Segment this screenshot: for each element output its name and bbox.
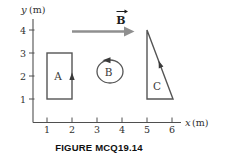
y-axis-label-var: y bbox=[20, 4, 27, 15]
field-arrow: B bbox=[72, 10, 135, 37]
loop-a-rectangle: A bbox=[47, 53, 75, 99]
y-axis-label-unit: (m) bbox=[29, 4, 45, 15]
y-tick-2: 2 bbox=[20, 71, 26, 82]
loop-b-circle: B bbox=[97, 57, 123, 83]
figure-canvas: 4 3 2 1 y (m) 1 2 3 4 5 6 x (m) bbox=[0, 0, 225, 161]
loop-b-label: B bbox=[105, 66, 113, 78]
x-axis-label-unit: (m) bbox=[192, 117, 208, 128]
x-tick-1: 1 bbox=[44, 124, 50, 135]
loop-c-direction-arrow-icon bbox=[159, 61, 164, 69]
x-axis-label-var: x bbox=[185, 117, 191, 128]
loop-b-direction-arrow-icon bbox=[103, 57, 111, 63]
field-arrowhead bbox=[124, 27, 135, 37]
y-tick-3: 3 bbox=[20, 48, 26, 59]
x-axis: 1 2 3 4 5 6 x (m) bbox=[33, 117, 208, 136]
loop-c-label: C bbox=[153, 80, 161, 92]
physics-figure: 4 3 2 1 y (m) 1 2 3 4 5 6 x (m) bbox=[0, 0, 225, 161]
y-tick-4: 4 bbox=[20, 25, 26, 36]
y-axis: 4 3 2 1 y (m) bbox=[20, 4, 45, 123]
x-tick-2: 2 bbox=[69, 124, 75, 135]
field-symbol: B bbox=[116, 14, 125, 27]
loop-a-direction-arrow-icon bbox=[69, 73, 74, 81]
x-tick-3: 3 bbox=[94, 124, 100, 135]
vector-overbar-arrow-icon bbox=[117, 10, 129, 14]
y-tick-1: 1 bbox=[20, 94, 26, 105]
x-tick-4: 4 bbox=[119, 124, 125, 135]
loop-a-label: A bbox=[53, 70, 62, 82]
figure-caption: FIGURE MCQ19.14 bbox=[55, 142, 143, 153]
x-tick-5: 5 bbox=[144, 124, 150, 135]
x-tick-6: 6 bbox=[169, 124, 175, 135]
loop-c-triangle: C bbox=[147, 30, 173, 99]
